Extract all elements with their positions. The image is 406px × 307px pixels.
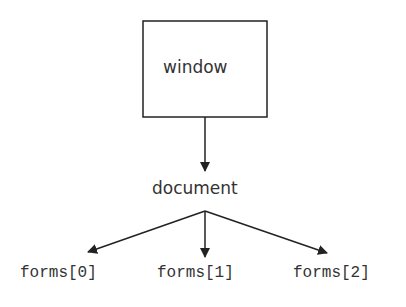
forms2-label: forms[2] bbox=[293, 264, 370, 282]
document-label: document bbox=[152, 178, 238, 198]
forms0-label: forms[0] bbox=[20, 264, 97, 282]
arrow-document-to-forms0 bbox=[88, 211, 205, 252]
forms1-label: forms[1] bbox=[157, 264, 234, 282]
diagram-canvas bbox=[0, 0, 406, 307]
arrow-document-to-forms2 bbox=[205, 211, 327, 253]
window-label: window bbox=[163, 57, 228, 77]
